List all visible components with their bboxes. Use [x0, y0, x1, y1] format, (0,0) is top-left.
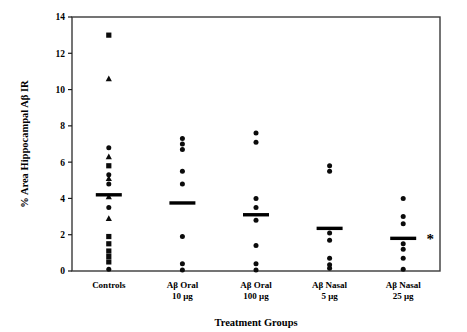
data-point-circle — [401, 241, 406, 246]
x-group-label-line2: 10 μg — [172, 291, 193, 301]
y-axis-title: % Area Hippocampal Aβ IR — [19, 80, 30, 208]
data-point-triangle — [106, 154, 112, 160]
y-axis-ticks: 02468101214 — [56, 12, 73, 276]
data-point-circle — [180, 261, 185, 266]
data-point-circle — [180, 234, 185, 239]
y-tick-label: 14 — [56, 12, 66, 22]
significance-asterisk: * — [426, 231, 434, 247]
data-point-circle — [106, 267, 111, 272]
data-point-circle — [254, 218, 259, 223]
data-point-square — [106, 33, 111, 38]
plot-canvas: 02468101214 * ControlsAβ Oral10 μgAβ Ora… — [0, 0, 467, 332]
data-point-circle — [401, 247, 406, 252]
data-point-circle — [401, 256, 406, 261]
data-point-square — [106, 248, 111, 253]
data-point-circle — [401, 214, 406, 219]
data-point-circle — [106, 145, 111, 150]
x-axis-group-labels: ControlsAβ Oral10 μgAβ Oral100 μgAβ Nasa… — [92, 280, 421, 301]
data-point-circle — [401, 267, 406, 272]
data-point-circle — [106, 205, 111, 210]
x-group-label-line1: Aβ Nasal — [312, 280, 347, 290]
data-point-circle — [254, 131, 259, 136]
data-point-circle — [327, 163, 332, 168]
data-point-circle — [254, 261, 259, 266]
mean-bars-layer — [96, 195, 416, 239]
data-point-square — [106, 259, 111, 264]
data-point-triangle — [106, 175, 112, 181]
data-point-circle — [180, 142, 185, 147]
data-point-circle — [401, 221, 406, 226]
data-point-circle — [254, 243, 259, 248]
scatter-plot-figure: 02468101214 * ControlsAβ Oral10 μgAβ Ora… — [0, 0, 467, 332]
data-point-circle — [180, 136, 185, 141]
y-tick-label: 10 — [56, 85, 66, 95]
data-point-square — [106, 234, 111, 239]
x-group-label-line2: 25 μg — [393, 291, 414, 301]
x-group-label-line2: 5 μg — [321, 291, 338, 301]
x-group-label-line1: Controls — [92, 280, 126, 290]
data-point-circle — [180, 169, 185, 174]
data-points-layer — [106, 33, 406, 273]
data-point-circle — [401, 196, 406, 201]
data-point-circle — [180, 268, 185, 273]
data-point-square — [106, 241, 111, 246]
x-axis-title: Treatment Groups — [214, 317, 297, 328]
data-point-circle — [327, 238, 332, 243]
x-group-label-line1: Aβ Nasal — [386, 280, 421, 290]
data-point-circle — [254, 196, 259, 201]
data-point-square — [106, 163, 111, 168]
data-point-square — [106, 254, 111, 259]
y-tick-label: 0 — [60, 266, 65, 276]
data-point-circle — [327, 266, 332, 271]
data-point-circle — [106, 181, 111, 186]
data-point-circle — [180, 147, 185, 152]
data-point-circle — [327, 256, 332, 261]
data-point-circle — [254, 205, 259, 210]
data-point-circle — [254, 140, 259, 145]
y-tick-label: 6 — [60, 158, 65, 168]
x-group-label-line2: 100 μg — [243, 291, 269, 301]
significance-markers-layer: * — [426, 231, 434, 247]
y-tick-label: 12 — [56, 49, 66, 59]
x-group-label-line1: Aβ Oral — [240, 280, 272, 290]
y-tick-label: 8 — [60, 121, 65, 131]
data-point-circle — [327, 230, 332, 235]
data-point-circle — [327, 169, 332, 174]
data-point-triangle — [106, 215, 112, 221]
data-point-circle — [254, 268, 259, 273]
data-point-triangle — [106, 76, 112, 82]
x-group-label-line1: Aβ Oral — [167, 280, 199, 290]
y-tick-label: 2 — [60, 230, 65, 240]
y-tick-label: 4 — [60, 194, 65, 204]
data-point-circle — [180, 181, 185, 186]
